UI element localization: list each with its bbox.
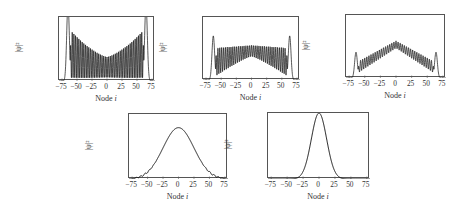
- plot-area: [267, 112, 369, 178]
- x-axis-label: Node i: [365, 91, 425, 100]
- x-axis-label: Node i: [76, 94, 136, 103]
- x-axis-label: Node i: [221, 93, 281, 102]
- plot-area: [58, 16, 154, 80]
- data-line: [203, 36, 300, 80]
- x-tick-label: 75: [356, 181, 376, 188]
- x-axis-label-text: Node: [240, 93, 259, 102]
- y-axis-label: |ψ|²: [301, 33, 310, 57]
- plot-area: [128, 113, 227, 178]
- y-axis-label: |ψ|²: [158, 35, 167, 59]
- x-axis-label-text: Node: [384, 91, 403, 100]
- x-axis-label-text: Node: [167, 192, 186, 201]
- x-tick-label: 75: [141, 83, 161, 90]
- x-axis-label: Node i: [288, 192, 348, 201]
- x-tick-label: 75: [432, 80, 452, 87]
- x-axis-label-var: i: [115, 94, 117, 103]
- plot-svg: [203, 17, 300, 80]
- x-axis-label-var: i: [186, 192, 188, 201]
- data-line: [268, 113, 370, 179]
- plot-area: [202, 16, 299, 79]
- y-axis-label: |ψ|²: [84, 133, 93, 157]
- x-axis-label-var: i: [404, 91, 406, 100]
- plot-svg: [59, 17, 155, 81]
- x-axis-label: Node i: [148, 192, 208, 201]
- plot-svg: [268, 113, 370, 179]
- plot-svg: [129, 114, 228, 179]
- y-axis-label: |ψ|²: [223, 133, 232, 157]
- plot-area: [345, 14, 445, 77]
- data-line: [129, 128, 228, 179]
- x-axis-label-text: Node: [307, 192, 326, 201]
- x-tick-label: 75: [214, 181, 234, 188]
- data-line: [59, 4, 155, 81]
- x-tick-label: 75: [286, 82, 306, 89]
- plot-svg: [346, 15, 446, 78]
- x-axis-label-var: i: [259, 93, 261, 102]
- y-axis-label: |ψ|²: [14, 36, 23, 60]
- data-line: [346, 41, 446, 78]
- x-axis-label-var: i: [327, 192, 329, 201]
- x-axis-label-text: Node: [95, 94, 114, 103]
